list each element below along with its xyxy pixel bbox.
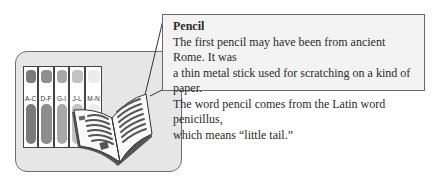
callout-title: Pencil (173, 19, 416, 35)
pencil-info-callout: Pencil The first pencil may have been fr… (162, 14, 425, 91)
callout-line: The word pencil comes from the Latin wor… (173, 97, 416, 128)
callout-pointer-line (150, 90, 162, 96)
callout-line: The first pencil may have been from anci… (173, 35, 416, 66)
callout-line: which means “little tail.” (173, 128, 416, 144)
callout-line: a thin metal stick used for scratching o… (173, 66, 416, 97)
open-book-icon (72, 94, 152, 166)
